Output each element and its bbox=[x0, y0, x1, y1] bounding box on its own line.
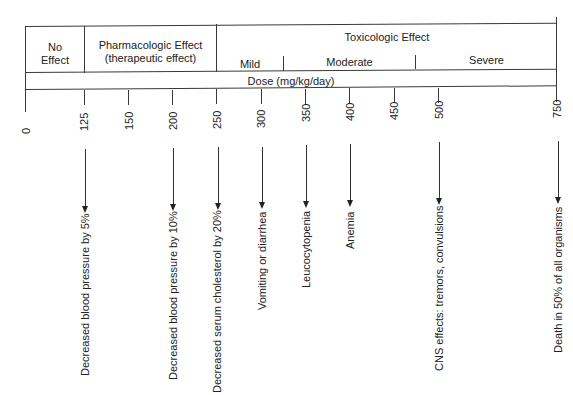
dose-axis-label: Dose (mg/kg/day) bbox=[26, 75, 556, 88]
tick-350 bbox=[305, 89, 306, 104]
tick-label-0: 0 bbox=[20, 128, 32, 134]
table-top-border bbox=[25, 23, 557, 27]
arrow-down-icon bbox=[303, 201, 309, 208]
arrow-shaft-125 bbox=[85, 149, 86, 207]
tick-150 bbox=[128, 90, 129, 105]
table-right-border bbox=[556, 17, 557, 89]
tick-label-750: 750 bbox=[551, 100, 563, 118]
arrow-shaft-500 bbox=[439, 142, 440, 199]
tick-label-150: 150 bbox=[123, 112, 135, 130]
tick-label-200: 200 bbox=[167, 112, 179, 130]
arrow-down-icon bbox=[436, 198, 442, 205]
arrow-shaft-300 bbox=[262, 147, 263, 203]
tick-label-300: 300 bbox=[255, 110, 267, 128]
tick-label-250: 250 bbox=[211, 111, 223, 129]
arrow-shaft-200 bbox=[173, 148, 174, 205]
effect-label-400: Anemia bbox=[344, 212, 356, 249]
tick-label-500: 500 bbox=[433, 101, 445, 119]
effect-label-750: Death in 50% of all organisms bbox=[552, 207, 564, 353]
tick-200 bbox=[172, 90, 173, 105]
arrow-shaft-750 bbox=[558, 141, 559, 198]
arrow-down-icon bbox=[170, 204, 176, 211]
arrow-down-icon bbox=[347, 200, 353, 207]
header-bottom-line bbox=[25, 69, 557, 73]
tick-label-450: 450 bbox=[388, 102, 400, 120]
effect-label-250: Decreased serum cholesterol by 20% bbox=[211, 210, 223, 393]
arrow-down-icon bbox=[555, 197, 561, 204]
effect-label-350: Leucocytopenia bbox=[300, 211, 312, 288]
arrow-down-icon bbox=[215, 203, 221, 210]
tick-250 bbox=[216, 89, 217, 104]
tick-125 bbox=[84, 90, 85, 105]
arrow-shaft-350 bbox=[306, 145, 307, 202]
tick-label-400: 400 bbox=[344, 103, 356, 121]
severe-label: Severe bbox=[416, 54, 557, 67]
no-effect-label: No Effect bbox=[26, 41, 84, 67]
arrow-down-icon bbox=[82, 206, 88, 213]
pharmacologic-effect-label: Pharmacologic Effect (therapeutic effect… bbox=[85, 39, 216, 65]
tick-label-350: 350 bbox=[300, 104, 312, 122]
arrow-shaft-250 bbox=[218, 147, 219, 204]
toxicologic-effect-label: Toxicologic Effect bbox=[217, 31, 557, 44]
tick-300 bbox=[261, 89, 262, 104]
effect-label-300: Vomiting or diarrhea bbox=[256, 212, 268, 310]
effect-label-500: CNS effects: tremors, convulsions bbox=[433, 206, 445, 371]
arrow-down-icon bbox=[259, 202, 265, 209]
arrow-shaft-400 bbox=[350, 144, 351, 201]
tick-400 bbox=[349, 88, 350, 103]
moderate-label: Moderate bbox=[284, 56, 415, 69]
mild-label: Mild bbox=[217, 58, 283, 71]
effect-label-200: Decreased blood pressure by 10% bbox=[167, 211, 179, 380]
effect-label-125: Decreased blood pressure by 5% bbox=[79, 213, 91, 376]
tick-0 bbox=[25, 90, 26, 112]
tick-label-125: 125 bbox=[78, 113, 90, 131]
